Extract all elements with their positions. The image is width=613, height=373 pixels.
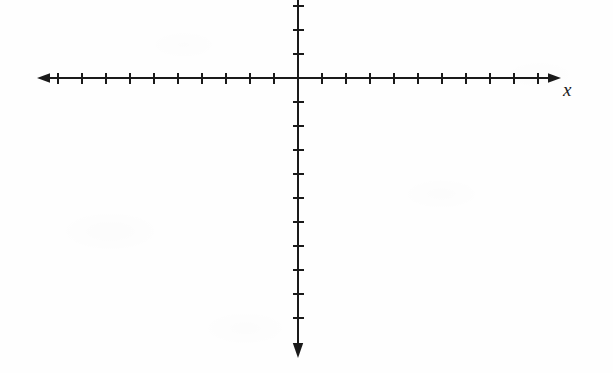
y-axis-bottom-arrowhead	[293, 343, 303, 358]
x-axis-right-arrowhead	[548, 73, 561, 83]
x-axis-left-arrowhead	[37, 73, 50, 83]
coordinate-grid-figure: x	[0, 0, 613, 373]
x-axis-label: x	[563, 80, 571, 99]
axes-drawing	[0, 0, 613, 373]
